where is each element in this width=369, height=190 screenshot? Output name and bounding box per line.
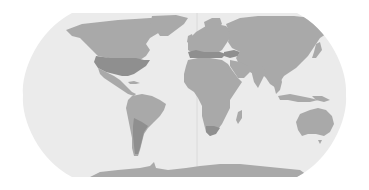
world-map-svg xyxy=(0,0,369,190)
world-map xyxy=(0,0,369,190)
